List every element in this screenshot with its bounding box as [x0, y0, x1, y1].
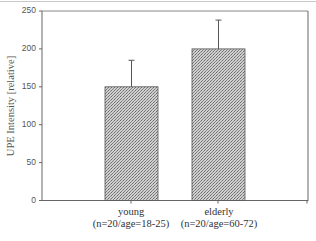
y-tick-label: 100 [12, 119, 36, 129]
y-tick-label: 150 [12, 81, 36, 91]
category-label: elderly [164, 206, 274, 218]
y-axis-label: UPE Intensity [relative] [5, 56, 16, 156]
category-sublabel: (n=20/age=60-72) [164, 218, 274, 230]
bars [105, 20, 307, 203]
bar [192, 49, 245, 201]
y-tick-label: 250 [12, 5, 36, 15]
y-tick-label: 50 [12, 157, 36, 167]
plot-frame [40, 11, 308, 201]
bar-chart [0, 0, 316, 241]
y-tick-label: 200 [12, 43, 36, 53]
bar [105, 87, 158, 201]
x-category-elderly: elderly (n=20/age=60-72) [164, 206, 274, 230]
y-tick-label: 0 [12, 195, 36, 205]
